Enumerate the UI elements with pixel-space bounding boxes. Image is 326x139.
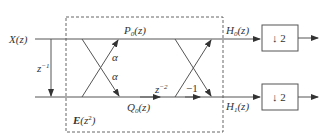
- downsampler-top: ↓ 2: [262, 25, 298, 51]
- alpha-top-label: α: [112, 51, 118, 63]
- svg-text:↓ 2: ↓ 2: [272, 32, 286, 44]
- delay-label: z−1: [36, 62, 50, 74]
- svg-text:↓ 2: ↓ 2: [272, 91, 286, 103]
- h0-label: H0(z): [225, 24, 249, 38]
- alpha-bottom-label: α: [112, 70, 118, 82]
- minus-one-label: −1: [186, 82, 198, 94]
- polyphase-filter-bank-diagram: X(z) z−1 α α P0(z) Q0(z) z−2 −1 E(z2) H0…: [0, 0, 326, 139]
- block-label: E(z2): [72, 114, 96, 127]
- h1-label: H1(z): [225, 100, 249, 114]
- input-label: X(z): [8, 33, 28, 46]
- cross1-up-branch: [82, 40, 118, 97]
- p0-label: P0(z): [123, 24, 146, 38]
- q0-label: Q0(z): [127, 101, 150, 115]
- downsampler-bottom: ↓ 2: [262, 84, 298, 110]
- z2-delay-label: z−2: [154, 83, 168, 95]
